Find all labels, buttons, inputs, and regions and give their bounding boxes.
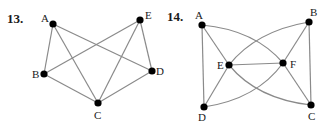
label-a: A xyxy=(195,9,203,21)
node-a xyxy=(49,20,56,27)
node-c xyxy=(94,99,101,106)
node-c xyxy=(307,101,314,108)
label-d: D xyxy=(156,65,164,77)
edge-a-d xyxy=(53,24,152,71)
edge-a-d xyxy=(202,25,204,107)
label-d: D xyxy=(198,111,206,123)
label-f: F xyxy=(290,58,296,70)
edge-e-c xyxy=(229,65,311,105)
nodes xyxy=(40,16,155,106)
node-d xyxy=(200,103,207,110)
label-e: E xyxy=(145,9,152,21)
label-c: C xyxy=(308,110,315,122)
edge-d-e xyxy=(204,65,229,107)
node-d xyxy=(148,67,155,74)
edge-e-b xyxy=(44,20,140,74)
graph-figures: 13. A E B D C 14. xyxy=(0,0,324,133)
figure-13: 13. A E B D C xyxy=(7,9,164,121)
edge-e-f xyxy=(229,63,283,65)
node-f xyxy=(279,59,286,66)
label-c: C xyxy=(94,109,101,121)
label-a: A xyxy=(41,12,49,24)
edge-b-c xyxy=(309,22,311,105)
edge-d-f xyxy=(204,63,283,107)
node-b xyxy=(40,70,47,77)
edge-e-d xyxy=(140,20,152,71)
node-e xyxy=(136,16,143,23)
edges xyxy=(44,20,152,103)
figure-number: 14. xyxy=(167,9,183,24)
figure-number: 13. xyxy=(7,11,23,26)
edge-b-f xyxy=(283,22,309,63)
figure-14: 14. A B E F D C xyxy=(167,6,317,123)
edge-f-c xyxy=(283,63,311,105)
label-b: B xyxy=(32,68,39,80)
edge-b-e xyxy=(229,22,309,65)
node-a xyxy=(198,21,205,28)
label-b: B xyxy=(310,6,317,18)
edge-a-b xyxy=(44,24,53,74)
label-e: E xyxy=(217,59,224,71)
node-e xyxy=(225,61,232,68)
node-b xyxy=(305,18,312,25)
edge-a-e xyxy=(202,25,229,65)
